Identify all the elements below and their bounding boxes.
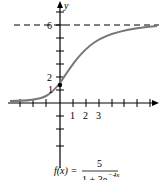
y-intercept-point — [58, 83, 62, 87]
y-axis-label: y — [63, 0, 69, 11]
formula-numerator: 5 — [97, 158, 102, 169]
logistic-graph: y 6 2 1 1 2 3 f(x) = 5 1 + 3e −4x — [0, 0, 159, 180]
formula-denominator: 1 + 3e — [82, 174, 108, 180]
y-axis-arrow-icon — [57, 1, 63, 8]
x-axis-arrow-icon — [152, 100, 159, 106]
formula-lhs: f(x) = — [54, 165, 77, 177]
x-tick-label-3: 3 — [96, 110, 101, 121]
y-tick-label-2: 2 — [47, 72, 52, 83]
x-tick-label-1: 1 — [70, 110, 75, 121]
logistic-curve — [10, 26, 157, 101]
y-tick-label-6: 6 — [47, 20, 52, 31]
formula-exponent: −4x — [108, 171, 120, 179]
y-tick-label-1: 1 — [48, 84, 53, 95]
x-tick-label-2: 2 — [83, 110, 88, 121]
